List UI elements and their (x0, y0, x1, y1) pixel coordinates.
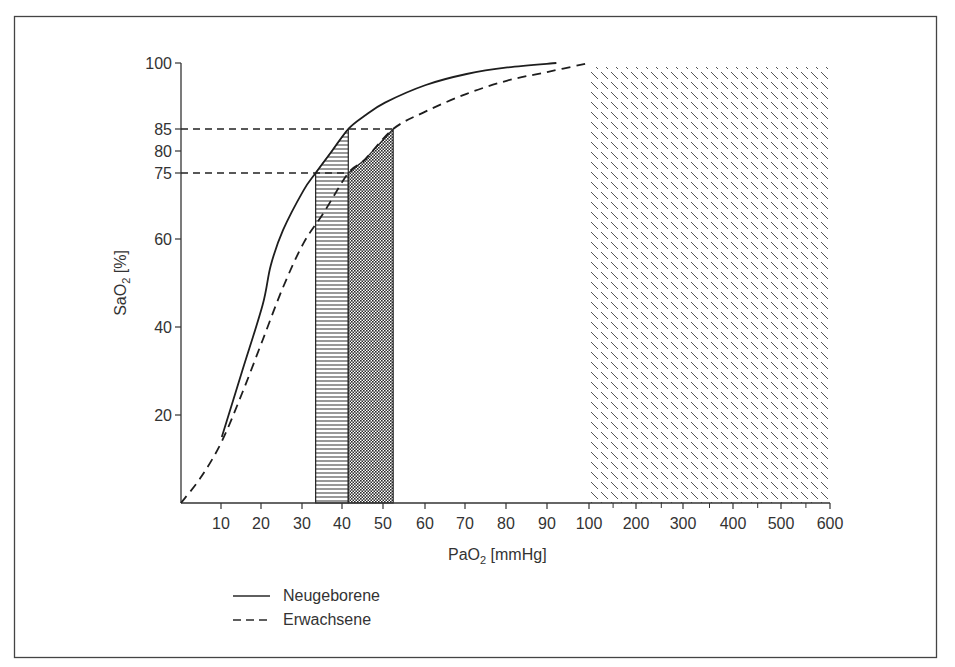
x-tick-label: 400 (720, 515, 747, 532)
legend: Neugeborene Erwachsene (233, 587, 380, 628)
x-tick-label: 300 (670, 515, 697, 532)
y-tick-label: 85 (154, 121, 172, 138)
x-tick-label: 100 (576, 515, 603, 532)
x-tick-label: 50 (374, 515, 392, 532)
x-axis-label: PaO2 [mmHg] (448, 546, 547, 566)
y-tick-label: 20 (154, 407, 172, 424)
x-tick-label: 80 (497, 515, 515, 532)
y-tick-label: 40 (154, 319, 172, 336)
x-tick-label: 600 (817, 515, 844, 532)
y-tick-label: 75 (154, 165, 172, 182)
y-tick-label: 60 (154, 231, 172, 248)
x-tick-label: 90 (538, 515, 556, 532)
x-tick-label: 60 (416, 515, 434, 532)
newborn-target-range-region (316, 129, 349, 503)
legend-label: Erwachsene (283, 611, 371, 628)
oxygen-dissociation-chart: 2040607580851001020304050607080901002003… (0, 0, 955, 667)
adult-target-range-region (348, 129, 393, 503)
hyperoxia-region (589, 67, 830, 503)
shaded-regions (316, 67, 830, 503)
x-tick-label: 10 (212, 515, 230, 532)
x-tick-label: 30 (293, 515, 311, 532)
x-tick-label: 200 (623, 515, 650, 532)
x-tick-label: 20 (252, 515, 270, 532)
legend-item-neugeborene: Neugeborene (233, 587, 380, 604)
x-tick-label: 40 (333, 515, 351, 532)
y-axis-label: SaO2 [%] (112, 250, 132, 316)
y-tick-label: 100 (145, 55, 172, 72)
y-tick-label: 80 (154, 143, 172, 160)
x-tick-label: 70 (456, 515, 474, 532)
legend-label: Neugeborene (283, 587, 380, 604)
legend-item-erwachsene: Erwachsene (233, 611, 371, 628)
x-tick-label: 500 (768, 515, 795, 532)
